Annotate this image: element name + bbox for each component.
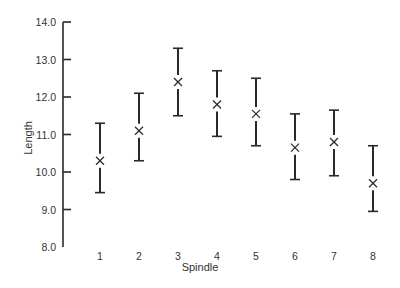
x-axis-title: Spindle: [155, 261, 245, 273]
mean-x-marker: [252, 110, 260, 118]
y-tick-label: 12.0: [16, 91, 56, 103]
mean-x-marker: [369, 179, 377, 187]
y-tick-label: 13.0: [16, 54, 56, 66]
y-tick-label: 8.0: [16, 241, 56, 253]
error-bar-spindle-6: [290, 114, 300, 180]
plot-area: [0, 0, 400, 288]
x-tick-label: 6: [285, 250, 305, 262]
x-tick-label: 7: [324, 250, 344, 262]
y-tick-label: 14.0: [16, 16, 56, 28]
error-bar-spindle-8: [368, 146, 378, 212]
error-bar-spindle-1: [95, 123, 105, 192]
error-bar-spindle-2: [134, 93, 144, 161]
error-bar-spindle-5: [251, 78, 261, 146]
mean-x-marker: [96, 157, 104, 165]
error-bar-chart: 14.013.012.011.010.09.08.0 12345678 Spin…: [0, 0, 400, 288]
y-tick-label: 9.0: [16, 204, 56, 216]
x-tick-label: 1: [90, 250, 110, 262]
y-tick-label: 10.0: [16, 166, 56, 178]
mean-x-marker: [330, 138, 338, 146]
error-bar-spindle-4: [212, 71, 222, 137]
x-tick-label: 2: [129, 250, 149, 262]
mean-x-marker: [135, 127, 143, 135]
y-axis-title: Length: [22, 116, 34, 160]
x-tick-label: 5: [246, 250, 266, 262]
error-bar-spindle-3: [173, 48, 183, 116]
x-tick-label: 8: [363, 250, 383, 262]
mean-x-marker: [213, 101, 221, 109]
error-bar-spindle-7: [329, 110, 339, 176]
mean-x-marker: [291, 144, 299, 152]
mean-x-marker: [174, 78, 182, 86]
